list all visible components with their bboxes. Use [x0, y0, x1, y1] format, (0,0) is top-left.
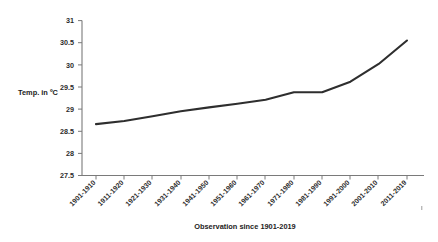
- chart-figure: 27.5 28 28.5 29 29.5 30 30.5 31 Temp. in…: [0, 0, 438, 242]
- x-tick-label: 1911-1920: [96, 179, 124, 207]
- x-tick-label: 1961-1970: [237, 179, 266, 208]
- x-tick-label: 2001-2010: [350, 179, 379, 208]
- temperature-series-line: [96, 41, 407, 125]
- x-tick-label: 1901-1910: [68, 179, 97, 208]
- scan-artifact: [421, 206, 422, 210]
- temperature-line-chart: 27.5 28 28.5 29 29.5 30 30.5 31 Temp. in…: [0, 0, 438, 242]
- y-axis-title: Temp. in ºC: [18, 88, 59, 97]
- y-tick-label: 27.5: [60, 171, 74, 180]
- x-tick-label: 2011-2019: [379, 179, 407, 207]
- x-tick-label: 1941-1950: [181, 179, 210, 208]
- x-tick-label: 1951-1960: [209, 179, 238, 208]
- x-axis-ticks: [96, 176, 407, 180]
- y-axis-ticks: [78, 21, 82, 176]
- x-tick-label: 1971-1980: [266, 179, 295, 208]
- x-tick-label: 1981-1990: [294, 179, 323, 208]
- x-tick-label: 1931-1940: [153, 179, 182, 208]
- y-tick-label: 28.5: [60, 127, 74, 136]
- y-axis-tick-labels: 27.5 28 28.5 29 29.5 30 30.5 31: [60, 16, 74, 180]
- y-tick-label: 29.5: [60, 83, 74, 92]
- x-axis-tick-labels: 1901-1910 1911-1920 1921-1930 1931-1940 …: [68, 179, 408, 208]
- x-tick-label: 1991-2000: [322, 179, 351, 208]
- y-tick-label: 29: [66, 105, 74, 114]
- x-axis-title: Observation since 1901-2019: [194, 222, 295, 231]
- y-tick-label: 31: [66, 16, 74, 25]
- y-tick-label: 30: [66, 61, 74, 70]
- y-tick-label: 30.5: [60, 38, 74, 47]
- y-tick-label: 28: [66, 149, 74, 158]
- x-tick-label: 1921-1930: [124, 179, 153, 208]
